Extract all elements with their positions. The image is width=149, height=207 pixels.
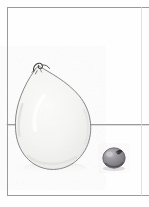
- small-fruit-highlight: [106, 152, 113, 157]
- small-fruit: [103, 148, 125, 171]
- still-life-illustration: [0, 0, 149, 207]
- drawing-canvas: Still life drawing of a pear and a small…: [0, 0, 149, 207]
